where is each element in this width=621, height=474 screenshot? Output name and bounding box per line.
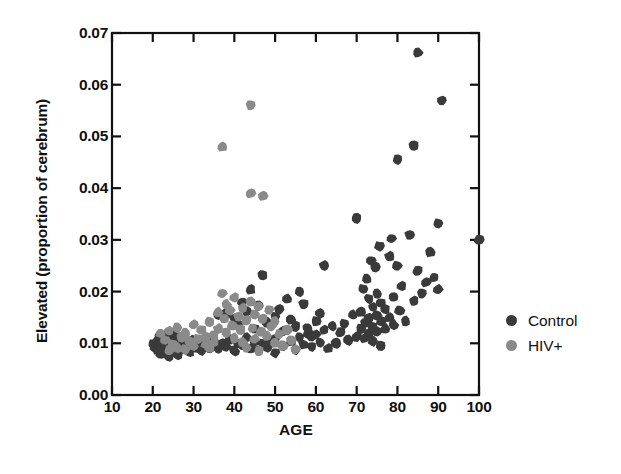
- scatter-point: [370, 261, 380, 272]
- scatter-point: [229, 292, 238, 302]
- scatter-point: [389, 292, 398, 301]
- scatter-point: [362, 274, 371, 284]
- scatter-plot-figure: Elevated (proportion of cerebrum) 0.000.…: [0, 0, 621, 474]
- scatter-point: [417, 289, 427, 299]
- scatter-point: [409, 140, 419, 150]
- scatter-point: [373, 289, 382, 299]
- scatter-point: [282, 294, 292, 304]
- scatter-point: [291, 345, 301, 355]
- scatter-point: [380, 305, 389, 315]
- legend-marker-icon: [506, 315, 517, 326]
- legend-item-hiv: HIV+: [506, 333, 616, 358]
- scatter-point: [404, 230, 415, 240]
- scatter-point: [246, 188, 257, 198]
- scatter-point: [320, 325, 329, 335]
- scatter-point: [246, 101, 256, 111]
- scatter-point: [258, 191, 268, 201]
- scatter-point: [397, 281, 406, 291]
- scatter-point: [258, 270, 268, 280]
- data-points: [149, 47, 485, 361]
- scatter-point: [319, 260, 329, 271]
- scatter-point: [374, 241, 385, 251]
- scatter-point: [437, 96, 447, 105]
- scatter-point: [248, 324, 257, 333]
- scatter-point: [295, 287, 304, 298]
- legend-label: Control: [528, 312, 577, 330]
- scatter-point: [230, 333, 239, 344]
- scatter-point: [376, 341, 385, 351]
- x-tick-label: 100: [454, 398, 504, 416]
- scatter-point: [364, 294, 373, 305]
- scatter-point: [474, 235, 485, 245]
- scatter-point: [384, 251, 394, 262]
- scatter-point: [270, 348, 280, 358]
- legend-label: HIV+: [528, 337, 563, 355]
- scatter-point: [196, 325, 206, 334]
- scatter-point: [401, 315, 410, 326]
- scatter-point: [286, 315, 296, 325]
- scatter-point: [429, 273, 438, 282]
- scatter-point: [328, 321, 337, 332]
- scatter-point: [356, 307, 366, 317]
- scatter-point: [433, 219, 443, 229]
- scatter-point: [412, 266, 422, 276]
- scatter-point: [246, 284, 255, 294]
- scatter-point: [359, 284, 369, 294]
- scatter-point: [409, 295, 418, 305]
- scatter-point: [393, 154, 402, 165]
- scatter-point: [352, 213, 361, 224]
- scatter-point: [433, 284, 444, 294]
- scatter-point: [335, 327, 345, 337]
- scatter-point: [217, 142, 227, 152]
- chart-legend: ControlHIV+: [506, 308, 616, 358]
- scatter-point: [413, 47, 423, 57]
- scatter-point: [425, 247, 435, 257]
- scatter-point: [392, 261, 403, 271]
- scatter-point: [302, 323, 312, 332]
- scatter-point: [386, 234, 397, 243]
- scatter-point: [220, 314, 229, 323]
- x-axis-tick-labels: 102030405060708090100: [0, 398, 621, 422]
- x-axis-title: AGE: [112, 421, 480, 439]
- scatter-point: [255, 346, 264, 357]
- scatter-point: [394, 306, 405, 316]
- scatter-point: [306, 342, 316, 352]
- scatter-point: [205, 317, 214, 327]
- legend-marker-icon: [506, 340, 517, 351]
- legend-item-control: Control: [506, 308, 616, 333]
- scatter-point: [217, 289, 228, 298]
- scatter-point: [316, 338, 325, 348]
- scatter-point: [298, 300, 308, 310]
